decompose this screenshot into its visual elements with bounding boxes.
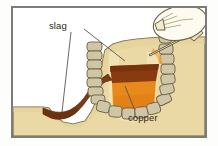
stone-block [161, 64, 175, 74]
label-copper: copper [128, 112, 158, 123]
stone-block [87, 78, 102, 87]
figure-frame: slag copper [11, 6, 207, 138]
furnace-diagram: slag copper [13, 8, 205, 136]
stone-block [87, 69, 102, 78]
label-slag: slag [49, 20, 67, 31]
stone-block [108, 105, 122, 117]
figure-container: slag copper [0, 0, 218, 146]
stone-block [87, 51, 102, 60]
stone-block [160, 73, 175, 85]
stone-block [87, 42, 102, 51]
stone-block [87, 60, 102, 69]
